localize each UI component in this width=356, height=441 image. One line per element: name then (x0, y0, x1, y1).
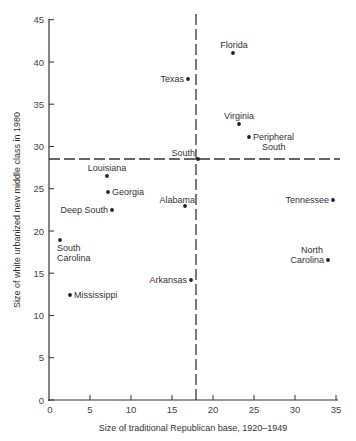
x-tick-labels: 0 5 10 15 20 25 30 35 (47, 404, 341, 415)
x-tick-10: 10 (126, 404, 137, 415)
point-peripheral-south (247, 135, 251, 139)
y-tick-35: 35 (33, 99, 44, 110)
y-tick-20: 20 (33, 226, 44, 237)
y-tick-45: 45 (33, 14, 44, 25)
label-alabama: Alabama (159, 195, 195, 205)
y-tick-40: 40 (33, 57, 44, 68)
point-north-carolina (326, 258, 330, 262)
label-north-carolina-2: Carolina (290, 255, 324, 265)
x-tick-5: 5 (87, 404, 92, 415)
label-mississippi: Mississippi (74, 290, 118, 300)
label-arkansas: Arkansas (149, 275, 187, 285)
y-tick-labels: 0 5 10 15 20 25 30 35 40 45 (33, 14, 44, 406)
label-south-carolina-2: Carolina (57, 253, 91, 263)
label-deep-south: Deep South (60, 205, 108, 215)
x-tick-30: 30 (290, 404, 301, 415)
label-florida: Florida (220, 40, 248, 50)
x-tick-35: 35 (331, 404, 342, 415)
label-virginia: Virginia (224, 111, 254, 121)
x-axis-title: Size of traditional Republican base, 192… (99, 423, 288, 433)
point-mississippi (68, 293, 72, 297)
point-tennessee (331, 198, 335, 202)
x-ticks (90, 395, 336, 400)
y-tick-5: 5 (39, 352, 44, 363)
scatter-chart: 0 5 10 15 20 25 30 35 40 45 0 5 10 15 20… (0, 0, 356, 441)
point-south-carolina (58, 238, 62, 242)
point-georgia (106, 190, 110, 194)
point-florida (231, 51, 235, 55)
x-tick-0: 0 (47, 404, 52, 415)
point-virginia (237, 122, 241, 126)
label-south: South (171, 148, 195, 158)
point-south (196, 157, 200, 161)
point-louisiana (105, 174, 109, 178)
label-texas: Texas (160, 74, 184, 84)
y-tick-30: 30 (33, 141, 44, 152)
y-ticks (49, 20, 54, 400)
x-tick-20: 20 (208, 404, 219, 415)
x-tick-25: 25 (249, 404, 260, 415)
label-peripheral-south-2: South (262, 142, 286, 152)
point-arkansas (189, 278, 193, 282)
label-tennessee: Tennessee (285, 195, 329, 205)
y-tick-0: 0 (39, 395, 44, 406)
y-axis-title: Size of white urbanized new middle class… (12, 112, 22, 308)
x-tick-15: 15 (167, 404, 178, 415)
y-tick-25: 25 (33, 183, 44, 194)
label-peripheral-south-1: Peripheral (253, 132, 294, 142)
label-north-carolina-1: North (301, 245, 323, 255)
label-georgia: Georgia (112, 187, 144, 197)
point-texas (186, 77, 190, 81)
y-tick-10: 10 (33, 310, 44, 321)
point-labels: Florida Texas Virginia Peripheral South … (57, 40, 329, 300)
label-louisiana: Louisiana (88, 163, 127, 173)
point-deep-south (110, 208, 114, 212)
label-south-carolina-1: South (57, 243, 81, 253)
y-tick-15: 15 (33, 268, 44, 279)
